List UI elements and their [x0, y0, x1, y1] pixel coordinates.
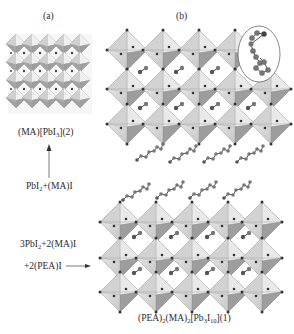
crystal-structure-figure — [0, 0, 294, 334]
panel-b-lower-block — [99, 201, 284, 314]
precursor-b-line2: +2(PEA)I — [24, 262, 62, 272]
panel-b-label: (b) — [176, 12, 187, 22]
panel-a-label: (a) — [43, 12, 54, 22]
arrow-right-icon — [66, 264, 91, 268]
pea-organic-layer — [121, 142, 265, 202]
precursor-a: PbI2+(MA)I — [26, 182, 73, 192]
pea-inset-ellipse — [238, 26, 280, 82]
panel-a-structure — [6, 34, 92, 114]
precursor-b-line1: 3PbI2+2(MA)I — [20, 240, 76, 250]
compound-2-formula: (MA)[PbI3](2) — [18, 128, 74, 138]
compound-1-formula: (PEA)2(MA)2[Pb3I10](1) — [138, 314, 231, 324]
arrow-up-icon — [47, 144, 52, 178]
